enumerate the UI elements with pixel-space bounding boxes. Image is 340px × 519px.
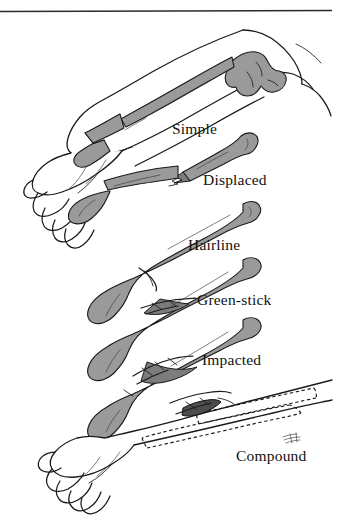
- label-compound: Compound: [236, 447, 307, 465]
- label-simple: Simple: [172, 120, 217, 138]
- label-impacted: Impacted: [202, 351, 261, 369]
- artist-signature-scribble: [283, 433, 300, 443]
- fracture-illustration-svg: .ink { fill:none; stroke:#1a1a1a; stroke…: [0, 0, 340, 519]
- top-divider-rule: [0, 11, 332, 12]
- label-hairline: Hairline: [188, 236, 240, 254]
- label-displaced: Displaced: [203, 171, 267, 189]
- label-green-stick: Green-stick: [197, 291, 272, 309]
- fracture-types-figure: .ink { fill:none; stroke:#1a1a1a; stroke…: [0, 0, 340, 519]
